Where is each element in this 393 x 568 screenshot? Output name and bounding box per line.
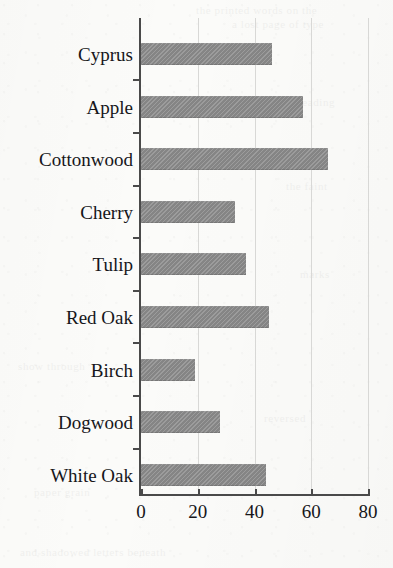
x-axis-tick [255,489,257,496]
category-label: Cyprus [78,45,133,64]
category-label: Tulip [93,255,134,274]
horizontal-bar-chart: CyprusAppleCottonwoodCherryTulipRed OakB… [0,0,393,568]
x-axis-tick-label: 60 [288,502,334,521]
x-axis-tick [198,489,200,496]
bar [141,43,272,65]
bar-series [141,18,368,496]
x-axis-tick-label: 20 [175,502,221,521]
y-axis-tick [133,342,140,344]
category-label: White Oak [50,466,133,485]
x-axis-tick [311,489,313,496]
bar [141,148,328,170]
bar [141,253,246,275]
x-axis-tick [141,489,143,496]
bar [141,464,266,486]
y-axis-tick [133,290,140,292]
bar [141,411,220,433]
category-label: Dogwood [58,413,133,432]
y-axis-tick [133,395,140,397]
bar [141,201,235,223]
x-axis-tick [368,489,370,496]
y-axis-tick [133,237,140,239]
x-axis-tick-label: 40 [232,502,278,521]
bar [141,359,195,381]
category-label: Red Oak [66,308,133,327]
category-label: Cottonwood [39,150,133,169]
y-axis-tick [133,79,140,81]
y-axis-line [139,18,141,496]
y-axis-tick [133,132,140,134]
y-axis-tick [133,185,140,187]
scanned-page: the printed words on thea lost page of t… [0,0,393,568]
x-axis-tick-label: 0 [118,502,164,521]
category-label: Birch [91,361,133,380]
category-label: Apple [87,98,133,117]
category-label: Cherry [80,203,133,222]
bar [141,96,303,118]
y-axis-tick [133,448,140,450]
bar [141,306,269,328]
x-axis-tick-label: 80 [345,502,391,521]
gridline [368,18,369,496]
